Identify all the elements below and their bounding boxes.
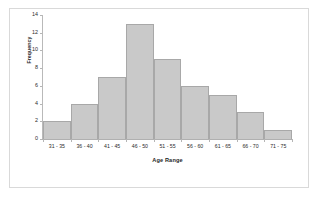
histogram-bar[interactable] <box>237 112 265 139</box>
bars-container <box>43 15 292 139</box>
histogram-bar[interactable] <box>181 86 209 139</box>
histogram-bar[interactable] <box>71 104 99 139</box>
x-tick-mark <box>71 139 72 142</box>
histogram-plot: Frequency 14121086420 31 - 3536 - 4041 -… <box>10 9 308 187</box>
y-tick-label: 2 <box>35 119 38 124</box>
x-axis-title: Age Range <box>43 157 292 163</box>
histogram-bar[interactable] <box>98 77 126 139</box>
x-tick-mark <box>43 139 44 142</box>
x-tick-label: 51 - 55 <box>154 143 182 155</box>
x-tick-mark <box>98 139 99 142</box>
y-tick-label: 0 <box>35 136 38 141</box>
histogram-bar[interactable] <box>154 59 182 139</box>
x-tick-mark <box>181 139 182 142</box>
y-tick-label: 6 <box>35 83 38 88</box>
x-tick-mark <box>237 139 238 142</box>
x-axis-line <box>42 139 292 140</box>
histogram-bar[interactable] <box>126 24 154 139</box>
histogram-bar[interactable] <box>43 121 71 139</box>
x-tick-mark <box>292 139 293 142</box>
y-tick-label: 10 <box>32 48 38 53</box>
x-tick-label: 36 - 40 <box>71 143 99 155</box>
y-tick-label: 8 <box>35 65 38 70</box>
x-tick-label: 41 - 45 <box>98 143 126 155</box>
x-tick-mark <box>154 139 155 142</box>
x-tick-mark <box>264 139 265 142</box>
x-tick-mark <box>126 139 127 142</box>
x-tick-label: 46 - 50 <box>126 143 154 155</box>
x-tick-label: 31 - 35 <box>43 143 71 155</box>
histogram-bar[interactable] <box>209 95 237 139</box>
x-tick-label: 71 - 75 <box>264 143 292 155</box>
x-tick-label: 56 - 60 <box>181 143 209 155</box>
x-tick-label: 61 - 65 <box>209 143 237 155</box>
x-tick-label: 66 - 70 <box>237 143 265 155</box>
x-axis-tick-labels: 31 - 3536 - 4041 - 4546 - 5051 - 5556 - … <box>43 143 292 155</box>
y-tick-label: 14 <box>32 12 38 17</box>
y-axis-tick-labels: 14121086420 <box>24 15 40 139</box>
chart-frame: Frequency 14121086420 31 - 3536 - 4041 -… <box>9 8 309 188</box>
x-tick-mark <box>209 139 210 142</box>
y-tick-label: 12 <box>32 30 38 35</box>
histogram-bar[interactable] <box>264 130 292 139</box>
y-tick-label: 4 <box>35 101 38 106</box>
